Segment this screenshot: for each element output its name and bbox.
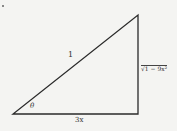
right-triangle <box>13 15 138 114</box>
angle-theta-label: θ <box>30 103 34 110</box>
height-label: √1 − 9x² <box>141 65 167 72</box>
base-label: 3x <box>75 117 83 124</box>
hypotenuse-label: 1 <box>68 51 73 59</box>
